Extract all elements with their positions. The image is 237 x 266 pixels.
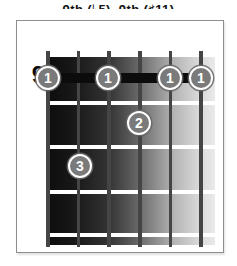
finger-number: 3 [70, 156, 90, 176]
finger-number: 1 [38, 68, 58, 88]
finger-number: 2 [129, 113, 149, 133]
fretboard [46, 57, 215, 245]
chord-caption-text: 9th (♭5), 9th (♯11) [63, 2, 175, 9]
fret-line-2 [46, 145, 215, 149]
fret-line-3 [46, 190, 215, 194]
chord-caption: 9th (♭5), 9th (♯11) [0, 0, 237, 9]
finger-marker-fret9-string4: 1 [96, 66, 120, 90]
finger-number: 1 [191, 68, 211, 88]
finger-marker-fret9-string1: 1 [189, 66, 213, 90]
fret-line-4 [46, 233, 215, 237]
finger-marker-fret9-string2: 1 [158, 66, 182, 90]
fret-line-1 [46, 101, 215, 105]
finger-marker-fret10-string3: 2 [127, 111, 151, 135]
finger-number: 1 [98, 68, 118, 88]
finger-marker-fret9-string6: 1 [36, 66, 60, 90]
chord-diagram-page: 9th (♭5), 9th (♯11) 9 1 1 1 1 2 3 [0, 0, 237, 266]
finger-marker-fret11-string5: 3 [68, 154, 92, 178]
finger-number: 1 [160, 68, 180, 88]
